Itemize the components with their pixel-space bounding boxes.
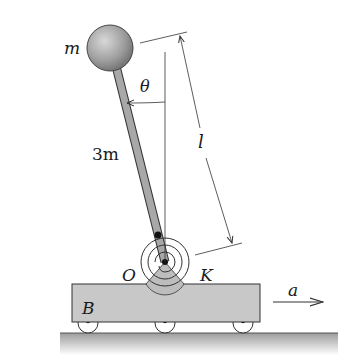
pendulum-cart-diagram: m θ 3m l O K B a: [0, 0, 357, 363]
label-sphere-mass: m: [64, 38, 80, 58]
label-angle: θ: [140, 77, 150, 96]
pivot-mount: [146, 262, 184, 295]
ground: [60, 333, 338, 355]
rod-dot: [155, 232, 162, 239]
label-acceleration: a: [288, 280, 298, 300]
label-pivot: O: [122, 265, 136, 285]
theta-arc: [127, 102, 165, 103]
label-rod-mass: 3m: [92, 144, 119, 164]
label-spring: K: [199, 265, 214, 285]
label-length: l: [198, 131, 204, 152]
label-cart: B: [81, 298, 95, 318]
sphere-mass: [87, 25, 133, 71]
